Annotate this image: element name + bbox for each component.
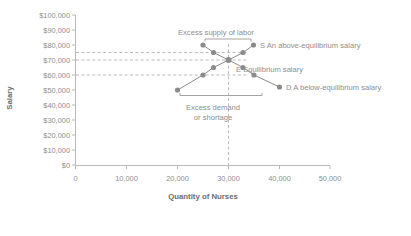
excess-demand-label-line2: or shortage bbox=[194, 113, 232, 122]
data-point-supply-label-marker bbox=[251, 42, 256, 47]
y-axis-tick-labels: $100,000 $90,000 $80,000 $70,000 $60,000… bbox=[39, 11, 70, 170]
y-tick-label: $100,000 bbox=[39, 11, 70, 20]
y-tick-label: $50,000 bbox=[43, 86, 70, 95]
y-tick-label: $70,000 bbox=[43, 56, 70, 65]
x-tick-label: 30,000 bbox=[217, 174, 240, 183]
data-point bbox=[175, 87, 180, 92]
excess-supply-brace bbox=[205, 39, 251, 42]
y-tick-label: $60,000 bbox=[43, 71, 70, 80]
demand-series-label: D A below-equilibrium salary bbox=[286, 83, 382, 92]
supply-demand-chart: $100,000 $90,000 $80,000 $70,000 $60,000… bbox=[0, 0, 411, 236]
data-point bbox=[240, 50, 245, 55]
y-tick-label: $80,000 bbox=[43, 41, 70, 50]
x-axis-title: Quantity of Nurses bbox=[168, 192, 238, 201]
y-tick-label: $40,000 bbox=[43, 101, 70, 110]
x-tick-label: 50,000 bbox=[319, 174, 342, 183]
y-tick-label: $90,000 bbox=[43, 26, 70, 35]
data-point bbox=[200, 42, 205, 47]
data-point-demand-label-marker bbox=[277, 84, 282, 89]
y-tick-label: $0 bbox=[62, 161, 70, 170]
x-axis-ticks bbox=[76, 166, 331, 170]
x-tick-label: 10,000 bbox=[115, 174, 138, 183]
data-point bbox=[211, 65, 216, 70]
equilibrium-point bbox=[226, 57, 232, 63]
excess-supply-label: Excess supply of labor bbox=[178, 28, 254, 37]
x-tick-label: 0 bbox=[73, 174, 77, 183]
y-tick-label: $20,000 bbox=[43, 131, 70, 140]
chart-svg: $100,000 $90,000 $80,000 $70,000 $60,000… bbox=[0, 0, 411, 236]
equilibrium-label: E Equilibrium salary bbox=[236, 65, 303, 74]
excess-demand-brace bbox=[180, 93, 262, 96]
x-tick-label: 40,000 bbox=[268, 174, 291, 183]
supply-series-label: S An above-equilibrium salary bbox=[260, 41, 361, 50]
x-tick-label: 20,000 bbox=[166, 174, 189, 183]
excess-demand-label-line1: Excess demand bbox=[186, 103, 240, 112]
y-axis-title: Salary bbox=[5, 86, 14, 110]
y-tick-label: $10,000 bbox=[43, 146, 70, 155]
data-point bbox=[211, 50, 216, 55]
y-tick-label: $30,000 bbox=[43, 116, 70, 125]
data-point bbox=[200, 72, 205, 77]
y-axis-ticks bbox=[72, 15, 76, 165]
x-axis-tick-labels: 0 10,000 20,000 30,000 40,000 50,000 bbox=[73, 174, 341, 183]
